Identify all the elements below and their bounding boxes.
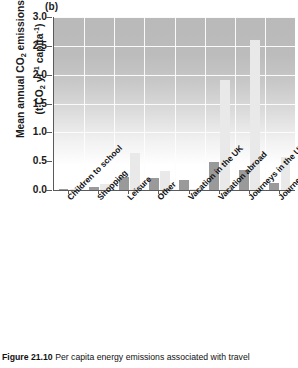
y-axis-tick-mark	[46, 46, 52, 47]
bar	[59, 189, 69, 190]
y-axis-tick-label: 0.5	[13, 155, 47, 166]
gridline-vertical	[114, 17, 115, 190]
y-axis-tick-mark	[46, 104, 52, 105]
y-axis-tick-label: 1.5	[13, 98, 47, 109]
y-axis-tick-label: 3.0	[13, 11, 47, 22]
y-axis-tick-label: 2.5	[13, 40, 47, 51]
gridline-vertical	[175, 17, 176, 190]
gridline-vertical	[235, 17, 236, 190]
bar	[89, 187, 99, 190]
y-axis-tick-label: 0.0	[13, 184, 47, 195]
y-axis-tick-mark	[46, 161, 52, 162]
bar	[179, 180, 189, 190]
y-axis-tick-mark	[46, 190, 52, 191]
gridline-vertical	[144, 17, 145, 190]
y-axis-tick-mark	[46, 17, 52, 18]
gridline-vertical	[205, 17, 206, 190]
bar	[220, 80, 230, 190]
figure-caption: Figure 21.10 Per capita energy emissions…	[2, 352, 298, 363]
caption-text: Per capita energy emissions associated w…	[55, 352, 250, 362]
y-axis-tick-label: 2.0	[13, 69, 47, 80]
gridline-vertical	[265, 17, 266, 190]
y-axis-tick-mark	[46, 132, 52, 133]
y-axis-tick-label: 1.0	[13, 126, 47, 137]
y-axis-tick-mark	[46, 75, 52, 76]
gridline-vertical	[84, 17, 85, 190]
caption-figure-number: Figure 21.10	[2, 352, 53, 362]
figure-panel-b: (b) Mean annual CO2 emissions (t CO2 yr-…	[0, 0, 298, 368]
